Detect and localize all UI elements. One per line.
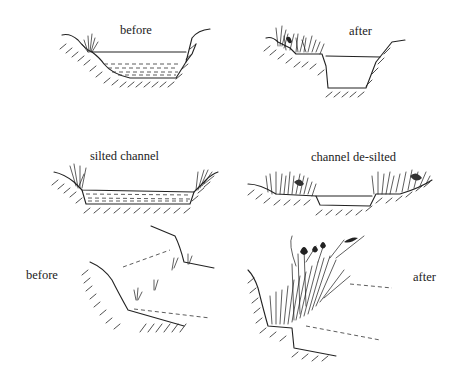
channel-before-cross-section [60, 29, 210, 87]
channel-desilted-cross-section [248, 170, 432, 215]
channel-after-cross-section [264, 26, 405, 97]
diagram-canvas [0, 0, 460, 378]
bank-after-perspective [248, 236, 392, 361]
bank-before-perspective [82, 226, 214, 332]
silted-channel-cross-section [52, 164, 218, 213]
